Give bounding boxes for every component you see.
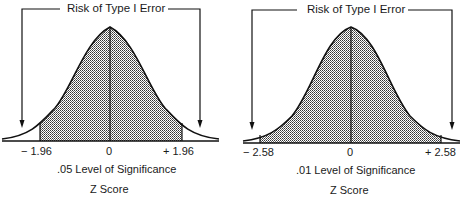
arrow-left xyxy=(22,9,60,120)
panel-05-axis-label: Z Score xyxy=(90,183,129,195)
panel-01-tick-center: 0 xyxy=(347,146,353,158)
panel-05-tick-right: + 1.96 xyxy=(163,145,194,157)
arrow-right-head xyxy=(450,122,455,130)
panel-01-caption: .01 Level of Significance xyxy=(296,164,415,176)
panel-01-axis-label: Z Score xyxy=(330,184,369,196)
arrow-left xyxy=(252,10,297,122)
panel-01-tick-left: − 2.58 xyxy=(243,146,274,158)
panel-01-title: Risk of Type I Error xyxy=(304,3,408,15)
panel-01 xyxy=(243,10,460,143)
arrow-left-head xyxy=(250,122,255,130)
arrow-right-head xyxy=(198,120,203,128)
panel-05-title: Risk of Type I Error xyxy=(64,2,168,14)
panel-05-tick-left: − 1.96 xyxy=(21,145,52,157)
panel-01-tick-right: + 2.58 xyxy=(425,146,456,158)
arrow-left-head xyxy=(20,120,25,128)
panel-05-caption: .05 Level of Significance xyxy=(57,163,176,175)
arrow-right xyxy=(162,9,200,120)
arrow-right xyxy=(405,10,452,122)
panel-05-tick-center: 0 xyxy=(106,145,112,157)
panel-05 xyxy=(2,9,219,141)
